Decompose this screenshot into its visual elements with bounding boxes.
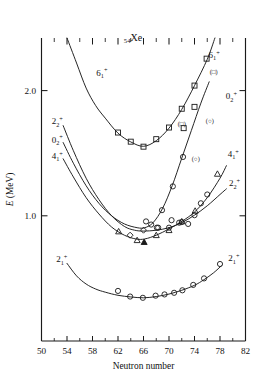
x-tick-label-82: 82: [241, 346, 251, 356]
datapoint-extra-0-square-marker: [192, 104, 197, 109]
x-tick-label-66: 66: [139, 346, 149, 356]
figure-panel: 505458626670747882Neutron number1.02.0E …: [0, 0, 267, 390]
paren-note-6_1+: (□): [210, 68, 218, 76]
series-label-right-2_2+: 22+: [229, 177, 241, 190]
datapoint-4_1+-triangle-filled-marker: [141, 239, 147, 244]
nucleus-label: 54Xe: [124, 32, 143, 44]
datapoint-extra-2-circle-marker: [169, 218, 174, 223]
series-label-right-2_1+-sup: +: [236, 252, 240, 259]
curve-2_1+: [67, 263, 221, 297]
datapoint-extra-7-circle-marker: [143, 219, 148, 224]
series-label-right-6_1+: 61+: [209, 49, 221, 62]
y-tick-label-2.0: 2.0: [25, 86, 37, 96]
x-tick-label-78: 78: [215, 346, 225, 356]
series-label-left-2_2+: 22+: [52, 115, 64, 128]
x-tick-label-74: 74: [190, 346, 200, 356]
series-label-left-2_1+-sup: +: [64, 253, 68, 260]
y-axis-title-unit: (MeV): [5, 173, 16, 201]
nucleus-symbol: Xe: [130, 32, 142, 43]
paren-note-0_2+-b: (○): [192, 155, 200, 163]
datapoint-2_1+-circle-marker: [217, 261, 222, 266]
series-label-left-0_2+-sup: +: [59, 133, 63, 140]
energy-level-systematics-chart: 505458626670747882Neutron number1.02.0E …: [0, 0, 267, 390]
x-tick-label-54: 54: [62, 346, 72, 356]
series-label-right-6_1+-sup: +: [216, 49, 220, 56]
nucleus-label-text: 54Xe: [124, 32, 143, 44]
series-label-left-4_1+-sup: +: [59, 150, 63, 157]
series-label-right-4_1+-sup: +: [235, 148, 239, 155]
paren-note-6_1+-b: (□): [178, 120, 186, 128]
x-tick-label-58: 58: [88, 346, 98, 356]
series-label-right-2_1+: 21+: [228, 252, 240, 265]
series-label-left-6_1+-sup: +: [104, 66, 108, 73]
series-label-left-4_1+: 41+: [52, 150, 64, 163]
series-label-left-6_1+: 61+: [96, 66, 108, 79]
curve-2_2+: [63, 126, 226, 231]
datapoint-4_1+-triangle-marker: [134, 237, 140, 242]
datapoint-extra-4-circle-marker: [186, 221, 191, 226]
y-axis-title-text: E (MeV): [5, 173, 16, 208]
y-tick-label-1.0: 1.0: [25, 211, 37, 221]
series-label-right-0_2+-sup: +: [233, 90, 237, 97]
series-label-right-4_1+: 41+: [228, 148, 240, 161]
series-label-left-2_2+-sup: +: [59, 115, 63, 122]
x-tick-label-62: 62: [113, 346, 123, 356]
datapoint-2_1+-circle-marker: [153, 293, 158, 298]
datapoint-4_1+-triangle-marker: [214, 171, 220, 176]
curve-0_2+: [63, 82, 209, 228]
series-label-left-2_1+: 21+: [56, 253, 68, 266]
datapoint-2_1+-circle-marker: [115, 288, 120, 293]
x-tick-label-70: 70: [164, 346, 174, 356]
series-label-left-0_2+: 02+: [52, 133, 64, 146]
x-axis-title: Neutron number: [113, 361, 176, 371]
paren-note-0_2+-a: (○): [206, 117, 214, 125]
series-label-right-0_2+: 02+: [226, 90, 238, 103]
curve-6_1+: [67, 38, 215, 146]
y-axis-title: E (MeV): [5, 173, 16, 208]
x-tick-label-50: 50: [37, 346, 47, 356]
series-label-right-2_2+-sup: +: [237, 177, 241, 184]
